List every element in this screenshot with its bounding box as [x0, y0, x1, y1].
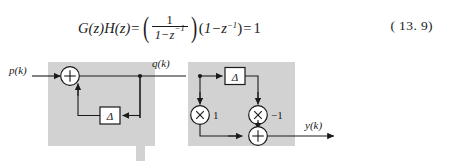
- group-term-lead: 1−z: [204, 20, 227, 37]
- label-input-pk: p(k): [8, 64, 27, 77]
- equation-expression: G(z)H(z)=( 1 1−z−1 )(1−z−1)=1: [78, 8, 262, 48]
- equation-equals-2: =: [242, 20, 252, 37]
- group-term-exponent: −1: [227, 20, 237, 30]
- equation-equals-1: =: [130, 20, 140, 37]
- fraction-denominator: 1−z−1: [152, 27, 188, 42]
- equation-fraction: 1 1−z−1: [151, 14, 189, 43]
- delay-block-right-label: Δ: [231, 71, 238, 83]
- fraction-denominator-lead: 1−z: [155, 29, 175, 43]
- label-output-yk: y(k): [304, 119, 322, 132]
- equation-result: 1: [253, 20, 262, 37]
- fraction-denominator-exponent: −1: [175, 23, 185, 33]
- label-intermediate-qk: q(k): [152, 57, 170, 70]
- equation-number: ( 13. 9): [390, 18, 433, 34]
- big-paren-close: ): [191, 12, 197, 42]
- equation-term-H: H(z): [104, 20, 130, 37]
- equation-term-G: G(z): [78, 20, 104, 37]
- equation-row: G(z)H(z)=( 1 1−z−1 )(1−z−1)=1 ( 13. 9): [0, 8, 449, 48]
- mask-left-tap: [136, 118, 145, 161]
- gain-label-negative: −1: [271, 109, 283, 121]
- delay-block-left-label: Δ: [106, 110, 113, 122]
- big-paren-open: (: [143, 12, 149, 42]
- gain-label-positive: 1: [213, 109, 219, 121]
- figure-root: G(z)H(z)=( 1 1−z−1 )(1−z−1)=1 ( 13. 9): [0, 0, 449, 161]
- block-diagram: Δ Δ 1: [0, 48, 449, 161]
